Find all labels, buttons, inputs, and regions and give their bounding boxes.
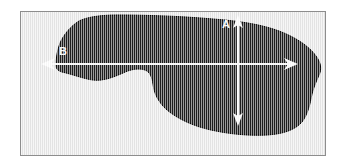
- dimension-label-b: B: [59, 45, 67, 57]
- figure-frame: A B: [20, 11, 326, 156]
- figure-root: A B: [0, 0, 343, 166]
- cross-section-silhouette-shape: [56, 15, 321, 135]
- dimension-label-a: A: [222, 18, 230, 30]
- diagram-canvas: A B: [21, 12, 325, 155]
